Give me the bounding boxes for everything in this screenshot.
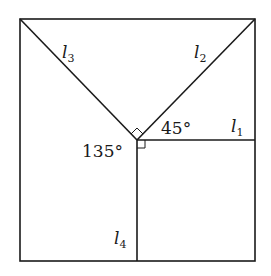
line-l3 bbox=[20, 19, 137, 140]
label-l1: l1 bbox=[231, 116, 243, 139]
angle-45-label: 45° bbox=[161, 118, 191, 138]
geometry-diagram: l3 l2 l1 l4 45° 135° bbox=[0, 0, 271, 276]
right-angle-mark-bottom bbox=[137, 140, 145, 148]
line-l2 bbox=[137, 19, 255, 140]
angle-135-label: 135° bbox=[82, 141, 123, 161]
label-l4: l4 bbox=[114, 228, 126, 251]
label-l3: l3 bbox=[62, 42, 74, 65]
right-angle-mark-top bbox=[131, 128, 143, 134]
label-l2: l2 bbox=[194, 42, 206, 65]
